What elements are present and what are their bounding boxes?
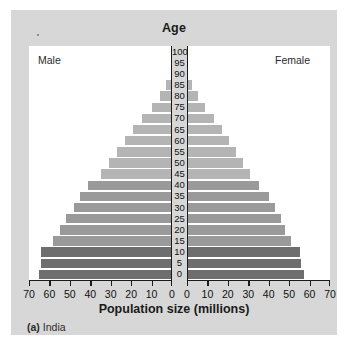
- age-tick-55: 55: [172, 147, 187, 157]
- age-axis-labels: 0510152025303540455055606570758085909510…: [172, 46, 187, 280]
- age-tick-35: 35: [172, 191, 187, 201]
- bar-male-age-25: [66, 214, 172, 223]
- bar-female-age-30: [187, 203, 275, 212]
- population-pyramid-figure: Age Male Female 051015202530354045505560…: [0, 0, 348, 344]
- bar-female-age-80: [187, 91, 198, 100]
- x-tick-label-50: 50: [64, 288, 76, 300]
- x-tick-70: [29, 280, 30, 286]
- x-tick-label-20: 20: [222, 288, 234, 300]
- bar-female-age-5: [187, 259, 301, 268]
- x-tick-20: [228, 280, 229, 286]
- x-tick-label-50: 50: [283, 288, 295, 300]
- bar-female-age-75: [187, 103, 205, 112]
- x-tick-label-0: 0: [169, 288, 175, 300]
- bar-female-age-35: [187, 192, 269, 201]
- x-tick-label-0: 0: [184, 288, 190, 300]
- bar-male-age-20: [60, 225, 172, 234]
- x-tick-60: [310, 280, 311, 286]
- x-tick-label-60: 60: [304, 288, 316, 300]
- x-tick-label-10: 10: [146, 288, 158, 300]
- bar-female-age-15: [187, 236, 291, 245]
- bar-male-age-60: [125, 136, 172, 145]
- bar-male-age-40: [88, 181, 172, 190]
- bar-male-age-0: [39, 270, 172, 279]
- age-tick-45: 45: [172, 169, 187, 179]
- bar-male-age-70: [142, 114, 172, 123]
- x-tick-label-30: 30: [105, 288, 117, 300]
- caption-text: India: [43, 321, 66, 333]
- x-tick-label-70: 70: [324, 288, 336, 300]
- bar-female-age-25: [187, 214, 281, 223]
- x-tick-label-70: 70: [23, 288, 35, 300]
- x-tick-40: [269, 280, 270, 286]
- x-tick-50: [70, 280, 71, 286]
- bar-female-age-50: [187, 158, 243, 167]
- bar-female-age-20: [187, 225, 285, 234]
- x-tick-label-40: 40: [84, 288, 96, 300]
- age-tick-65: 65: [172, 125, 187, 135]
- bar-female-age-45: [187, 169, 250, 178]
- bar-male-age-15: [53, 236, 173, 245]
- bar-male-age-55: [117, 147, 172, 156]
- age-tick-5: 5: [172, 258, 187, 268]
- bar-female-age-65: [187, 125, 222, 134]
- bar-female-age-60: [187, 136, 229, 145]
- age-tick-60: 60: [172, 136, 187, 146]
- x-tick-50: [289, 280, 290, 286]
- x-tick-label-10: 10: [202, 288, 214, 300]
- x-axis-right: [187, 280, 330, 287]
- x-tick-label-40: 40: [263, 288, 275, 300]
- age-tick-70: 70: [172, 113, 187, 123]
- age-tick-75: 75: [172, 102, 187, 112]
- age-tick-15: 15: [172, 236, 187, 246]
- bar-male-age-30: [74, 203, 172, 212]
- x-tick-10: [207, 280, 208, 286]
- bar-male-age-10: [41, 247, 172, 256]
- age-tick-95: 95: [172, 58, 187, 68]
- axis-spine-right: [187, 46, 188, 280]
- x-tick-30: [111, 280, 112, 286]
- female-bar-group: [187, 46, 330, 280]
- bar-male-age-35: [80, 192, 172, 201]
- bar-female-age-70: [187, 114, 214, 123]
- bar-male-age-50: [109, 158, 172, 167]
- x-tick-0: [171, 280, 172, 286]
- age-tick-100: 100: [172, 47, 187, 57]
- bar-female-age-40: [187, 181, 259, 190]
- age-tick-50: 50: [172, 158, 187, 168]
- age-tick-10: 10: [172, 247, 187, 257]
- x-tick-label-30: 30: [242, 288, 254, 300]
- chart-panel: Age Male Female 051015202530354045505560…: [11, 10, 337, 335]
- male-bar-group: [29, 46, 172, 280]
- age-tick-30: 30: [172, 203, 187, 213]
- x-tick-30: [248, 280, 249, 286]
- x-tick-60: [49, 280, 50, 286]
- x-tick-label-20: 20: [125, 288, 137, 300]
- x-tick-20: [131, 280, 132, 286]
- age-tick-20: 20: [172, 225, 187, 235]
- x-axis-left: [29, 280, 172, 287]
- x-axis-title: Population size (millions): [11, 302, 337, 316]
- x-tick-40: [90, 280, 91, 286]
- figure-caption: (a)India: [27, 321, 66, 333]
- age-tick-80: 80: [172, 91, 187, 101]
- bar-female-age-10: [187, 247, 300, 256]
- age-tick-40: 40: [172, 180, 187, 190]
- x-tick-70: [329, 280, 330, 286]
- bar-female-age-55: [187, 147, 236, 156]
- age-tick-25: 25: [172, 214, 187, 224]
- x-tick-10: [152, 280, 153, 286]
- bar-male-age-45: [101, 169, 173, 178]
- bar-male-age-5: [41, 259, 172, 268]
- x-tick-label-60: 60: [44, 288, 56, 300]
- chart-title: Age: [11, 21, 337, 35]
- caption-marker: (a): [27, 321, 40, 333]
- x-tick-labels-right: 010203040506070: [187, 288, 330, 301]
- age-tick-0: 0: [172, 269, 187, 279]
- age-tick-90: 90: [172, 69, 187, 79]
- bar-male-age-65: [133, 125, 172, 134]
- age-tick-85: 85: [172, 80, 187, 90]
- x-tick-0: [187, 280, 188, 286]
- bar-female-age-0: [187, 270, 304, 279]
- x-tick-labels-left: 706050403020100: [29, 288, 172, 301]
